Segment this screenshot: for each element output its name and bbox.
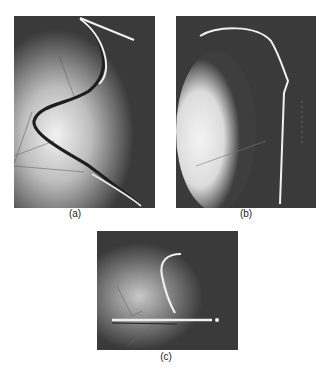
panel-c-label: (c) [146, 351, 186, 362]
photo-panel-a [14, 16, 155, 208]
panel-a-label: (a) [55, 208, 95, 219]
panel-b-label: (b) [226, 208, 266, 219]
photo-panel-b [176, 16, 316, 208]
photo-panel-c [97, 231, 238, 350]
